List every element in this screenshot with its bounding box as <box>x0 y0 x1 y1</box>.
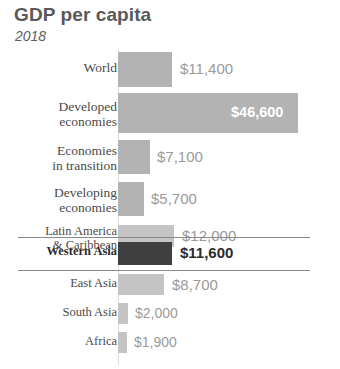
highlight-rule-bottom <box>18 270 310 271</box>
bar-row-developed-economies: Developed economies $46,600 <box>0 91 340 137</box>
bar-label-south-asia: South Asia <box>13 306 117 320</box>
bar-label-western-asia: Western Asia <box>13 245 117 259</box>
bar-label-africa: Africa <box>13 335 117 349</box>
chart-subtitle: 2018 <box>15 28 46 44</box>
bar-row-south-asia: South Asia $2,000 <box>0 301 340 330</box>
bar-label-developed-economies: Developed economies <box>13 99 117 129</box>
chart-title: GDP per capita <box>14 4 151 26</box>
gdp-per-capita-chart: GDP per capita 2018 World $11,400 Develo… <box>0 0 340 369</box>
bar-label-east-asia: East Asia <box>13 277 117 291</box>
bar-label-economies-in-transition: Economies in transition <box>13 143 117 173</box>
bar-western-asia <box>118 242 172 265</box>
bar-value-developed-economies: $46,600 <box>231 104 283 120</box>
bar-value-world: $11,400 <box>180 60 233 77</box>
bar-row-africa: Africa $1,900 <box>0 330 340 359</box>
bar-value-developing-economies: $5,700 <box>151 190 197 207</box>
bar-label-developing-economies: Developing economies <box>13 185 117 215</box>
bar-south-asia <box>118 303 128 324</box>
bar-row-world: World $11,400 <box>0 50 340 90</box>
bar-east-asia <box>118 274 164 295</box>
bar-economies-in-transition <box>118 140 150 174</box>
bar-world <box>118 52 172 87</box>
bar-row-east-asia: East Asia $8,700 <box>0 272 340 301</box>
bar-label-world: World <box>13 60 117 75</box>
chart-plot-area: World $11,400 Developed economies $46,60… <box>0 50 340 365</box>
bar-row-developing-economies: Developing economies $5,700 <box>0 180 340 221</box>
bar-row-western-asia: Western Asia $11,600 <box>0 239 340 269</box>
bar-value-south-asia: $2,000 <box>135 305 178 321</box>
bar-africa <box>118 332 127 353</box>
bar-value-western-asia: $11,600 <box>180 244 233 261</box>
highlight-rule-top <box>18 237 310 238</box>
bar-developing-economies <box>118 182 144 216</box>
bar-value-economies-in-transition: $7,100 <box>157 148 203 165</box>
bar-value-africa: $1,900 <box>134 334 177 350</box>
bar-row-economies-in-transition: Economies in transition $7,100 <box>0 138 340 179</box>
bar-value-east-asia: $8,700 <box>172 276 218 293</box>
